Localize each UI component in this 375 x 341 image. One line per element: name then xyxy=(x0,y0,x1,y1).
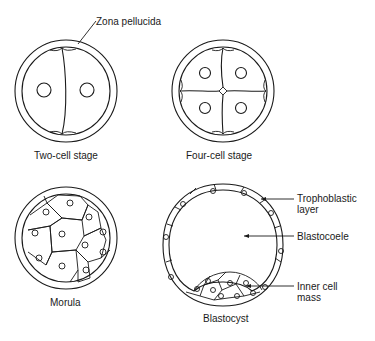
four-cell-stage xyxy=(172,40,274,142)
morula xyxy=(15,187,117,289)
two-cell-caption: Two-cell stage xyxy=(34,150,98,161)
inner-cell-mass-label-line2: mass xyxy=(297,292,321,303)
blastocyst xyxy=(163,184,294,306)
morula-caption: Morula xyxy=(50,297,81,308)
trophoblastic-label-line2: layer xyxy=(297,204,319,215)
two-cell-stage xyxy=(15,21,117,142)
blastocyst-caption: Blastocyst xyxy=(203,313,249,324)
inner-cell-mass-label-line1: Inner cell xyxy=(297,281,338,292)
four-cell-caption: Four-cell stage xyxy=(186,150,252,161)
zona-pellucida-label: Zona pellucida xyxy=(96,16,161,27)
blastocoele-label: Blastocoele xyxy=(297,231,349,242)
trophoblastic-label-line1: Trophoblastic xyxy=(297,193,357,204)
